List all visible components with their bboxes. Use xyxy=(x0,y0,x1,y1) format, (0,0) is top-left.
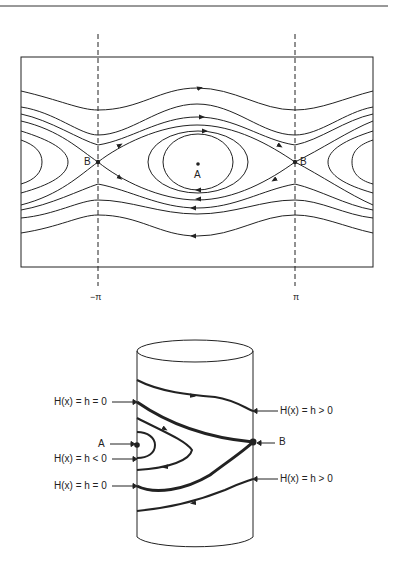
orbit-left-outer xyxy=(21,131,68,193)
cylinder-point-a xyxy=(134,442,140,448)
saddle-label-right: B xyxy=(300,157,307,167)
orbit-center-inner xyxy=(163,134,233,190)
orbit-bottom-2 xyxy=(21,200,373,218)
label-h-pos-bottom: H(x) = h > 0 xyxy=(280,474,333,484)
label-h-pos-top: H(x) = h > 0 xyxy=(280,406,333,416)
center-point-a xyxy=(196,162,200,166)
label-point-a: A xyxy=(98,439,105,449)
orbit-right-inner xyxy=(352,140,373,184)
orbit-top-3 xyxy=(21,114,373,145)
traj-top-hpos xyxy=(137,380,253,411)
orbit-left-inner xyxy=(21,140,42,184)
cylinder-point-b xyxy=(250,439,257,446)
cylinder-bottom-arc xyxy=(137,537,253,547)
orbit-bottom-3 xyxy=(21,184,373,210)
label-h-zero-top: H(x) = h = 0 xyxy=(54,397,107,407)
axis-tick-neg-pi: −π xyxy=(90,293,101,302)
cylinder xyxy=(137,340,253,547)
axis-tick-pi: π xyxy=(293,293,299,302)
orbit-top-2 xyxy=(21,104,373,135)
traj-separatrix-upper xyxy=(137,402,253,442)
label-point-b: B xyxy=(279,437,286,447)
saddle-label-left: B xyxy=(84,157,91,167)
saddle-point-right xyxy=(293,160,297,164)
label-h-neg: H(x) = h < 0 xyxy=(54,454,107,464)
saddle-point-left xyxy=(96,160,100,164)
phase-portrait xyxy=(21,34,373,286)
diagram-canvas xyxy=(0,0,395,561)
orbit-top-1 xyxy=(21,88,373,110)
label-h-zero-bottom: H(x) = h = 0 xyxy=(54,481,107,491)
orbit-bottom-1 xyxy=(21,215,373,236)
center-label-a: A xyxy=(194,170,201,180)
cylinder-top-ellipse xyxy=(137,340,253,362)
